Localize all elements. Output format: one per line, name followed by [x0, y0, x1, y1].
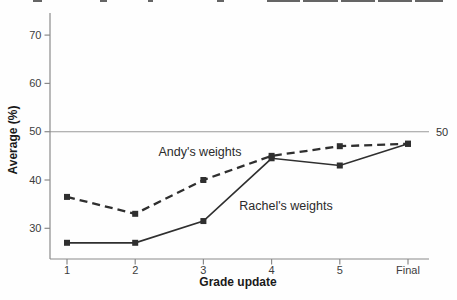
y-axis-title: Average (%)	[6, 106, 20, 175]
data-point-marker-rachel-s-weights	[269, 155, 275, 161]
data-point-marker-rachel-s-weights	[200, 218, 206, 224]
series-label-rachels-weights: Rachel's weights	[239, 199, 332, 213]
y-tick-label: 70	[29, 29, 41, 41]
x-tick-label: Final	[396, 264, 420, 276]
ref-line-label: 50	[436, 126, 448, 138]
x-tick-label: 1	[64, 264, 70, 276]
data-point-marker-andy-s-weights	[64, 194, 70, 200]
series-label-andys-weights: Andy's weights	[159, 145, 242, 159]
data-point-marker-andy-s-weights	[200, 177, 206, 183]
x-tick-label: 2	[132, 264, 138, 276]
data-point-marker-rachel-s-weights	[132, 240, 138, 246]
y-tick-label: 60	[29, 77, 41, 89]
y-tick-label: 30	[29, 222, 41, 234]
weighted-average-chart: 304050607012345Final Average (%) Grade u…	[0, 0, 457, 300]
data-point-marker-rachel-s-weights	[405, 141, 411, 147]
x-axis-title: Grade update	[199, 275, 276, 289]
data-point-marker-andy-s-weights	[337, 143, 343, 149]
y-tick-label: 50	[29, 125, 41, 137]
y-tick-label: 40	[29, 174, 41, 186]
x-tick-label: 5	[337, 264, 343, 276]
data-point-marker-andy-s-weights	[132, 211, 138, 217]
data-point-marker-rachel-s-weights	[64, 240, 70, 246]
data-point-marker-rachel-s-weights	[337, 163, 343, 169]
